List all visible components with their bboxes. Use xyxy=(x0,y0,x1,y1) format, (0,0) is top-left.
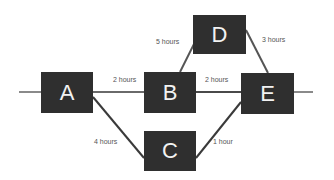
node-a: A xyxy=(41,72,93,113)
edge-label-b-d: 5 hours xyxy=(156,38,179,45)
node-c-label: C xyxy=(162,138,178,164)
node-b-label: B xyxy=(163,80,178,106)
edge-label-a-b: 2 hours xyxy=(113,76,136,83)
network-diagram: A B C D E 2 hours 2 hours 5 hours 3 hour… xyxy=(0,0,334,180)
node-d: D xyxy=(193,15,246,54)
edge-label-a-c: 4 hours xyxy=(94,138,117,145)
node-b: B xyxy=(144,72,196,113)
edge-b-d xyxy=(180,44,194,72)
edge-label-d-e: 3 hours xyxy=(262,36,285,43)
node-c: C xyxy=(144,131,196,171)
node-d-label: D xyxy=(212,22,228,48)
edge-label-c-e: 1 hour xyxy=(213,138,233,145)
edge-label-b-e: 2 hours xyxy=(205,76,228,83)
edge-c-e xyxy=(196,102,241,158)
node-e: E xyxy=(241,73,294,114)
edge-a-c xyxy=(93,97,144,158)
node-e-label: E xyxy=(260,81,275,107)
node-a-label: A xyxy=(60,80,75,106)
